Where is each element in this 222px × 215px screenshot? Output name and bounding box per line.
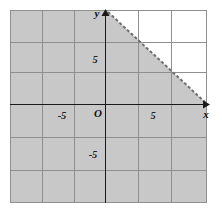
origin-label: O (94, 107, 102, 119)
graph-canvas: y x O -5 5 5 -5 (0, 0, 222, 215)
y-tick-label-pos5: 5 (92, 54, 97, 65)
y-axis-label: y (93, 7, 100, 19)
x-axis-label: x (202, 108, 209, 120)
coordinate-plane-figure: y x O -5 5 5 -5 (0, 0, 222, 215)
x-tick-label-pos5: 5 (150, 110, 155, 121)
y-tick-label-neg5: -5 (89, 149, 98, 160)
x-tick-label-neg5: -5 (58, 110, 67, 121)
